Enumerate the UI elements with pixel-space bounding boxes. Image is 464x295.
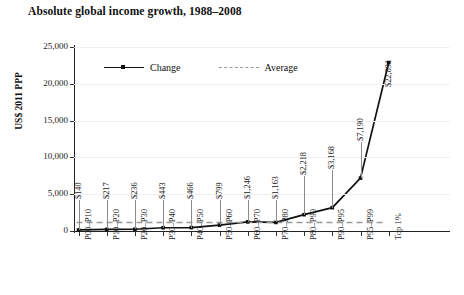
x-axis-tick-mark: [79, 232, 80, 236]
legend-swatch-average-icon: [219, 67, 259, 68]
x-axis-category-label: P30–P40: [167, 209, 177, 240]
x-axis-category-label: P00–P10: [83, 209, 93, 240]
y-axis-title: US$ 2011 PPP: [14, 46, 24, 156]
data-value-label: $236: [130, 182, 139, 199]
y-axis-tick-label: 0: [16, 225, 68, 235]
label-leader-line: [304, 176, 305, 215]
x-axis-category-label: P70–P80: [280, 209, 290, 240]
legend-label-average: Average: [265, 62, 298, 73]
label-leader-line: [107, 200, 108, 229]
x-axis-category-label: P80–P90: [308, 209, 318, 240]
x-axis-category-label: P60–P70: [252, 209, 262, 240]
data-value-label: $22,891: [384, 60, 393, 87]
data-value-label: $1,163: [271, 176, 280, 199]
label-leader-line: [191, 200, 192, 228]
x-axis-category-label: P40–P50: [195, 209, 205, 240]
y-axis-tick-mark: [70, 84, 74, 85]
label-leader-line: [361, 142, 362, 178]
chart-legend: Change Average: [104, 62, 298, 73]
chart-title: Absolute global income growth, 1988–2008: [28, 5, 242, 17]
data-value-label: $799: [215, 182, 224, 199]
label-leader-line: [248, 200, 249, 222]
y-axis-tick-label: 20,000: [16, 78, 68, 88]
series-line-change: [79, 63, 389, 230]
x-axis-category-label: Top 1%: [393, 213, 403, 240]
x-axis-tick-mark: [163, 232, 164, 236]
x-axis-tick-mark: [220, 232, 221, 236]
x-axis-category-label: P90–P95: [336, 209, 346, 240]
x-axis-category-label: P50–P60: [224, 209, 234, 240]
y-axis-tick-mark: [70, 47, 74, 48]
data-value-label: $2,218: [299, 152, 308, 175]
legend-item-change: Change: [104, 62, 181, 73]
chart-container: Absolute global income growth, 1988–2008…: [0, 0, 464, 295]
x-axis-tick-mark: [276, 232, 277, 236]
legend-item-average: Average: [219, 62, 298, 73]
y-axis-tick-label: 25,000: [16, 41, 68, 51]
y-axis-tick-label: 10,000: [16, 151, 68, 161]
data-value-label: $140: [74, 182, 83, 199]
label-leader-line: [276, 200, 277, 222]
gridline: [74, 84, 450, 85]
y-axis-tick-label: 15,000: [16, 115, 68, 125]
y-axis-tick-label: 5,000: [16, 188, 68, 198]
legend-swatch-change-icon: [104, 67, 144, 69]
x-axis-tick-mark: [389, 232, 390, 236]
x-axis-category-label: P95–P99: [365, 209, 375, 240]
plot-area: [74, 47, 450, 231]
label-leader-line: [135, 200, 136, 229]
label-leader-line: [79, 200, 80, 230]
x-axis-tick-mark: [107, 232, 108, 236]
y-axis-tick-mark: [70, 157, 74, 158]
data-value-label: $1,246: [243, 176, 252, 199]
y-axis-tick-mark: [70, 121, 74, 122]
data-value-label: $3,168: [327, 146, 336, 169]
gridline: [74, 47, 450, 48]
x-axis-category-label: P20–P30: [139, 209, 149, 240]
legend-label-change: Change: [150, 62, 181, 73]
data-value-label: $217: [102, 182, 111, 199]
y-axis-tick-mark: [70, 231, 74, 232]
x-axis-category-label: P10–P20: [111, 209, 121, 240]
data-value-label: $466: [186, 182, 195, 199]
x-axis-tick-mark: [135, 232, 136, 236]
label-leader-line: [332, 170, 333, 208]
x-axis-tick-mark: [248, 232, 249, 236]
label-leader-line: [163, 200, 164, 228]
data-value-label: $7,190: [356, 118, 365, 141]
gridline: [74, 121, 450, 122]
data-value-label: $443: [158, 182, 167, 199]
x-axis-tick-mark: [304, 232, 305, 236]
x-axis-tick-mark: [332, 232, 333, 236]
series-layer: [74, 47, 450, 231]
label-leader-line: [220, 200, 221, 225]
gridline: [74, 157, 450, 158]
x-axis-tick-mark: [361, 232, 362, 236]
x-axis-tick-mark: [191, 232, 192, 236]
